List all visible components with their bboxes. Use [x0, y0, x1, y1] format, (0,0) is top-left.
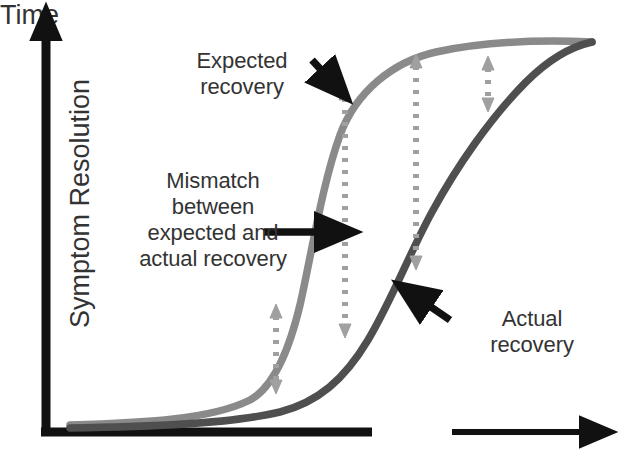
gap-4-arrowhead-down [482, 98, 494, 112]
mismatch-gap-1 [270, 304, 282, 394]
mismatch-description-label: Mismatch between expected and actual rec… [118, 168, 308, 272]
actual-recovery-label: Actual recovery [462, 306, 602, 358]
y-axis-label: Symptom Resolution [65, 69, 96, 339]
gap-1-arrowhead-down [270, 380, 282, 394]
pointer-to-expected-curve [312, 60, 336, 86]
expected-recovery-label: Expected recovery [172, 48, 312, 100]
recovery-trajectory-figure: Expected recovery Mismatch between expec… [0, 0, 626, 470]
gap-2-arrowhead-up [339, 86, 351, 100]
pointer-to-actual-curve [412, 294, 450, 320]
mismatch-gap-4 [482, 56, 494, 112]
gap-2-arrowhead-down [339, 324, 351, 338]
gap-3-arrowhead-down [410, 256, 422, 270]
gap-1-arrowhead-up [270, 304, 282, 318]
gap-4-arrowhead-up [482, 56, 494, 70]
